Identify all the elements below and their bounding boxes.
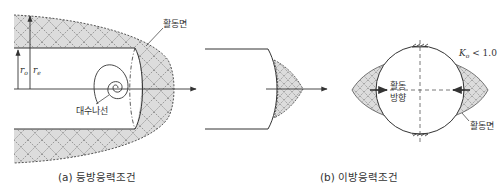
panel-middle-face bbox=[205, 49, 327, 129]
k-ratio-label: Ko < 1.0 bbox=[458, 48, 497, 59]
slip-direction-label-1: 활동 bbox=[390, 80, 406, 91]
figure-canvas: ro re 대수나선 활동면 활동 방향 Ko < bbox=[0, 0, 504, 195]
caption-b: (b) 이방응력조건 bbox=[320, 171, 398, 183]
log-spiral bbox=[94, 65, 128, 104]
log-spiral-label: 대수나선 bbox=[76, 106, 108, 116]
panel-a-isotropic: ro re 대수나선 활동면 bbox=[14, 15, 196, 163]
active-surface-label-a: 활동면 bbox=[163, 18, 187, 29]
r-o-label: ro bbox=[20, 65, 28, 76]
active-surface-label-b: 활동면 bbox=[470, 120, 494, 131]
r-e-label: re bbox=[33, 65, 41, 76]
slip-direction-label-2: 방향 bbox=[390, 92, 406, 103]
caption-a: (a) 등방응력조건 bbox=[58, 171, 136, 183]
panel-b-anisotropic: 활동 방향 Ko < 1.0 활동면 bbox=[352, 40, 497, 142]
